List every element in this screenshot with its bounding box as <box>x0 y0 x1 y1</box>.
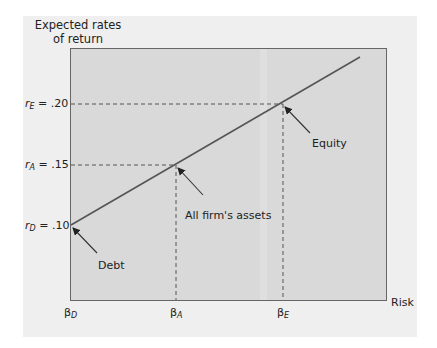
y-axis-title: Expected rates of return <box>28 18 128 46</box>
y-axis-title-line2: of return <box>28 32 128 46</box>
equity-label: Equity <box>312 137 347 150</box>
y-tick-re: rE = .20 <box>25 97 68 113</box>
x-tick-bd: βD <box>64 306 77 322</box>
debt-label: Debt <box>98 259 125 272</box>
y-tick-rd: rD = .10 <box>25 219 69 235</box>
assets-label: All firm's assets <box>185 209 271 222</box>
y-tick-ra: rA = .15 <box>25 158 69 174</box>
y-axis-title-line1: Expected rates <box>28 18 128 32</box>
x-tick-be: βE <box>277 306 289 322</box>
chart-plot <box>0 0 437 348</box>
x-tick-ba: βA <box>170 306 183 322</box>
x-axis-title: Risk <box>391 296 414 309</box>
scan-band <box>260 49 267 300</box>
